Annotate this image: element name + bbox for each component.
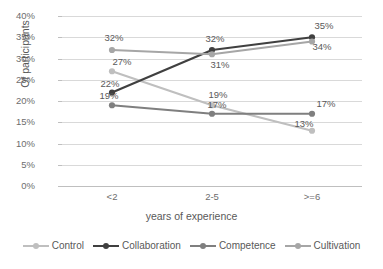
gridline bbox=[62, 186, 362, 187]
y-axis-tick-label: 40% bbox=[0, 10, 35, 21]
data-label: 32% bbox=[104, 32, 123, 43]
legend-item-collaboration[interactable]: Collaboration bbox=[93, 240, 181, 251]
legend-marker-icon bbox=[23, 241, 49, 251]
y-axis-tick-label: 5% bbox=[0, 159, 35, 170]
x-axis-title: years of experience bbox=[0, 210, 383, 222]
legend-marker-icon bbox=[190, 241, 216, 251]
legend-marker-icon bbox=[93, 241, 119, 251]
data-point-competence bbox=[109, 102, 115, 108]
y-axis-tick-mark bbox=[58, 186, 62, 187]
data-point-cultivation bbox=[109, 47, 115, 53]
data-point-competence bbox=[209, 111, 215, 117]
x-axis-tick-label: <2 bbox=[77, 191, 147, 202]
data-point-control bbox=[309, 128, 315, 134]
y-axis-tick-label: 35% bbox=[0, 31, 35, 42]
data-label: 32% bbox=[205, 33, 224, 44]
data-label: 17% bbox=[316, 97, 335, 108]
legend-label: Cultivation bbox=[314, 240, 361, 251]
legend-item-competence[interactable]: Competence bbox=[190, 240, 276, 251]
legend-item-control[interactable]: Control bbox=[23, 240, 84, 251]
chart-legend: ControlCollaborationCompetenceCultivatio… bbox=[0, 240, 383, 251]
y-axis-tick-label: 15% bbox=[0, 116, 35, 127]
legend-marker-icon bbox=[285, 241, 311, 251]
y-axis-tick-label: 30% bbox=[0, 53, 35, 64]
data-label: 19% bbox=[99, 90, 118, 101]
y-axis-tick-label: 10% bbox=[0, 138, 35, 149]
legend-label: Competence bbox=[219, 240, 276, 251]
data-label: 27% bbox=[112, 56, 131, 67]
data-label: 35% bbox=[314, 20, 333, 31]
x-axis-tick-label: >=6 bbox=[277, 191, 347, 202]
plot-area: 0%5%10%15%20%25%30%35%40% <22-5>=6 27%19… bbox=[62, 16, 362, 186]
y-axis-tick-label: 25% bbox=[0, 74, 35, 85]
data-label: 34% bbox=[312, 40, 331, 51]
line-chart: Of participants 0%5%10%15%20%25%30%35%40… bbox=[0, 0, 383, 269]
data-point-control bbox=[109, 68, 115, 74]
data-label: 31% bbox=[210, 59, 229, 70]
y-axis-tick-label: 0% bbox=[0, 180, 35, 191]
y-axis-tick-label: 20% bbox=[0, 95, 35, 106]
x-axis-tick-label: 2-5 bbox=[177, 191, 247, 202]
data-label: 13% bbox=[294, 117, 313, 128]
legend-label: Collaboration bbox=[122, 240, 181, 251]
data-point-cultivation bbox=[209, 51, 215, 57]
data-label: 22% bbox=[100, 77, 119, 88]
legend-item-cultivation[interactable]: Cultivation bbox=[285, 240, 361, 251]
legend-label: Control bbox=[52, 240, 84, 251]
data-label: 17% bbox=[207, 98, 226, 109]
data-point-competence bbox=[309, 111, 315, 117]
